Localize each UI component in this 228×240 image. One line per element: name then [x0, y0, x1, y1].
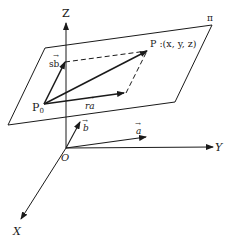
dashed-ra-to-p — [126, 51, 147, 93]
vector-a — [66, 137, 146, 148]
vector-a-arrow-mark: → — [135, 120, 141, 128]
vector-sb-label: sb — [49, 59, 60, 69]
origin-label: O — [61, 152, 69, 163]
plane-pi-label: π — [207, 13, 213, 23]
vector-p0-p — [44, 51, 147, 104]
y-axis — [66, 147, 213, 148]
z-axis-label: Z — [62, 7, 70, 20]
vector-plane-diagram: Z Y X O π P :(x, y, z) P0 sb → ra → b → … — [0, 0, 228, 240]
point-p0-label: P0 — [32, 101, 44, 115]
point-p-label: P :(x, y, z) — [150, 38, 197, 49]
y-axis-label: Y — [215, 141, 224, 154]
vector-ra-label: ra — [85, 101, 95, 111]
vector-b — [66, 122, 80, 148]
vector-ra-arrow-mark: → — [88, 94, 94, 102]
x-axis — [21, 148, 66, 219]
vector-b-arrow-mark: → — [82, 117, 88, 125]
vector-sb-arrow-mark: → — [53, 52, 59, 60]
x-axis-label: X — [12, 225, 22, 238]
